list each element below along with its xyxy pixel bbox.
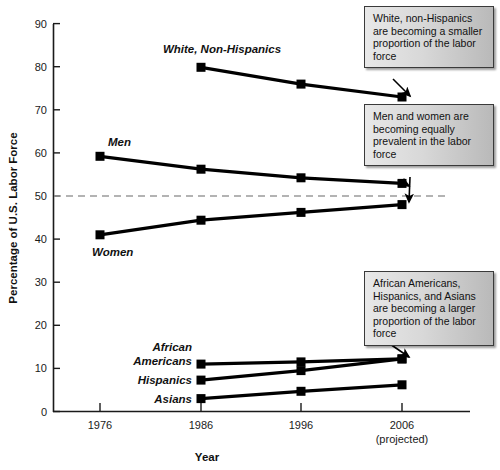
data-point-white-2006: [398, 93, 407, 102]
series-label-asians: Asians: [153, 393, 192, 405]
data-point-hispanics-1986: [197, 376, 206, 385]
line-chart-svg: 0 10 20 30 40 50 60 70 80 90 1976 1986 1…: [0, 0, 500, 470]
data-point-white-1986: [197, 63, 206, 72]
x-tick-label-1986: 1986: [189, 419, 213, 431]
y-tick-label-50: 50: [35, 190, 47, 202]
series-label-african-americans-line2: Americans: [132, 355, 192, 367]
series-line-men: [100, 156, 402, 183]
y-tick-label-40: 40: [35, 233, 47, 245]
series-men: [96, 152, 407, 188]
series-label-women: Women: [92, 246, 133, 258]
series-label-african-americans-line1: African: [151, 341, 192, 353]
data-point-men-1986: [197, 165, 206, 174]
data-point-white-1996: [297, 80, 306, 89]
y-tick-label-10: 10: [35, 362, 47, 374]
data-point-hispanics-2006: [398, 354, 407, 363]
x-axis-ticks: [100, 403, 402, 411]
data-point-asians-2006: [398, 380, 407, 389]
y-tick-label-0: 0: [41, 406, 47, 418]
y-tick-label-20: 20: [35, 319, 47, 331]
x-axis-tick-labels: 1976 1986 1996 2006 (projected): [88, 419, 429, 445]
x-tick-label-1976: 1976: [88, 419, 112, 431]
data-point-african-americans-1986: [197, 360, 206, 369]
y-axis-tick-labels: 0 10 20 30 40 50 60 70 80 90: [35, 18, 47, 418]
data-point-men-1976: [96, 152, 105, 161]
callout-minority-groups: African Americans, Hispanics, and Asians…: [364, 271, 494, 346]
data-point-women-2006: [398, 200, 407, 209]
series-label-hispanics: Hispanics: [138, 374, 192, 386]
series-line-women: [100, 205, 402, 235]
data-point-women-1976: [96, 230, 105, 239]
y-tick-label-60: 60: [35, 147, 47, 159]
y-tick-label-30: 30: [35, 276, 47, 288]
axis-lines: [53, 24, 470, 412]
data-point-women-1996: [297, 208, 306, 217]
data-point-women-1986: [197, 216, 206, 225]
x-tick-label-1996: 1996: [289, 419, 313, 431]
data-point-african-americans-1996: [297, 357, 306, 366]
x-axis-title: Year: [195, 451, 220, 463]
callout-arrow-women: [409, 177, 410, 202]
data-point-asians-1996: [297, 387, 306, 396]
series-label-men: Men: [108, 136, 131, 148]
y-tick-label-80: 80: [35, 61, 47, 73]
y-tick-label-90: 90: [35, 18, 47, 30]
y-tick-label-70: 70: [35, 104, 47, 116]
x-tick-sublabel-projected: (projected): [376, 433, 429, 445]
x-tick-label-2006: 2006: [390, 419, 414, 431]
series-white-non-hispanics: [197, 63, 407, 102]
data-point-hispanics-1996: [297, 366, 306, 375]
chart-container: 0 10 20 30 40 50 60 70 80 90 1976 1986 1…: [0, 0, 500, 470]
series-asians: [197, 380, 407, 403]
callout-white-non-hispanics: White, non-Hispanics are becoming a smal…: [364, 6, 494, 68]
data-point-asians-1986: [197, 394, 206, 403]
series-label-white: White, Non-Hispanics: [163, 43, 281, 55]
callout-men-women: Men and women are becoming equally preva…: [364, 104, 494, 166]
series-women: [96, 200, 407, 239]
y-axis-title: Percentage of U.S. Labor Force: [7, 132, 19, 303]
data-point-men-1996: [297, 173, 306, 182]
